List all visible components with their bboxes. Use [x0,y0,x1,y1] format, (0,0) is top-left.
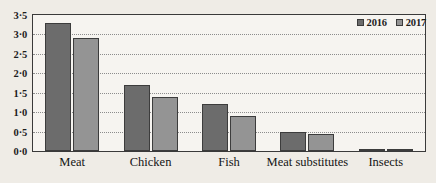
bar [202,104,228,151]
y-tick-label: 0·0 [14,146,27,157]
bar [280,132,306,151]
bar-group [347,15,425,151]
bars-layer [33,15,425,151]
x-axis: MeatChickenFishMeat substitutesInsects [33,155,425,181]
bar-group [33,15,111,151]
bar [359,149,385,151]
legend-label: 2017 [406,17,426,28]
y-tick-label: 3·5 [14,10,27,21]
bar-group [111,15,189,151]
legend-swatch-icon [396,19,403,26]
y-axis: 0·00·51·01·52·02·53·03·5 [0,0,30,183]
x-tick-label: Meat substitutes [267,155,349,170]
bar [387,149,413,151]
y-tick-label: 2·0 [14,68,27,79]
y-tick-label: 2·5 [14,48,27,59]
y-tick-label: 0·5 [14,126,27,137]
x-tick-label: Insects [368,155,403,170]
legend-entry[interactable]: 2016 [357,17,387,28]
y-tick-label: 1·0 [14,107,27,118]
bar-group [268,15,346,151]
bar [308,134,334,151]
y-tick-label: 1·5 [14,87,27,98]
bar-group [190,15,268,151]
legend: 20162017 [357,17,426,28]
x-tick-label: Fish [218,155,240,170]
legend-entry[interactable]: 2017 [396,17,426,28]
bar [124,85,150,151]
bar [230,116,256,151]
bar [73,38,99,151]
bar [45,23,71,151]
legend-swatch-icon [357,19,364,26]
y-tick-label: 3·0 [14,29,27,40]
bar [152,97,178,151]
x-tick-label: Chicken [130,155,172,170]
legend-label: 2016 [367,17,387,28]
x-tick-label: Meat [59,155,85,170]
bar-chart: 0·00·51·01·52·02·53·03·5 MeatChickenFish… [0,0,436,183]
